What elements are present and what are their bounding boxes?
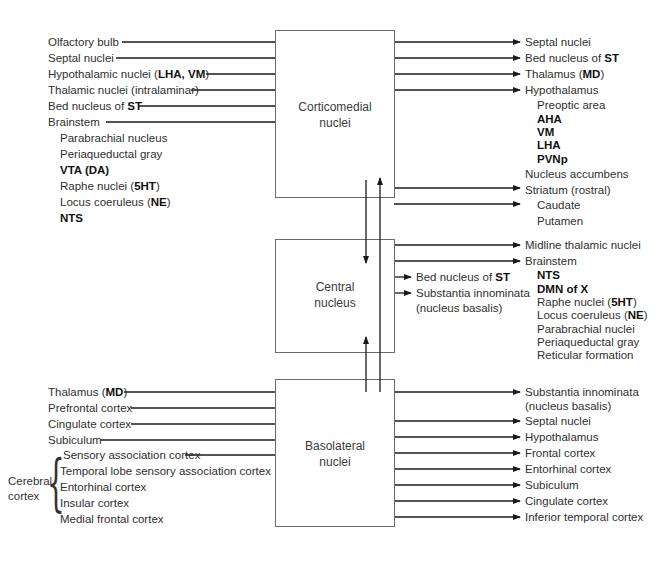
basolateral-nuclei-box: Basolateral nuclei [275, 379, 395, 527]
input-olfactory-bulb: Olfactory bulb [48, 35, 119, 49]
cerebral-cortex-label: Cerebral cortex [8, 474, 52, 504]
cortex-medial-frontal: Medial frontal cortex [60, 512, 164, 526]
output-hypothalamus: Hypothalamus [525, 83, 599, 97]
output-central-brainstem: Brainstem [525, 254, 577, 268]
bl-output-cingulate: Cingulate cortex [525, 494, 608, 508]
input-septal-nuclei: Septal nuclei [48, 51, 114, 65]
bl-input-subiculum: Subiculum [48, 433, 102, 447]
corticomedial-title-line1: Corticomedial [276, 100, 394, 115]
output-nucleus-accumbens: Nucleus accumbens [525, 167, 629, 181]
bl-input-thalamus: Thalamus (MD) [48, 385, 127, 399]
central-brainstem-locus: Locus coeruleus (NE) [537, 308, 648, 322]
corticomedial-title-line2: nuclei [276, 116, 394, 131]
central-brainstem-dmn: DMN of X [537, 282, 588, 296]
striatum-putamen: Putamen [537, 214, 583, 228]
input-brainstem: Brainstem [48, 115, 100, 129]
amygdala-connections-diagram: Corticomedial nuclei Central nucleus Bas… [0, 0, 668, 570]
brainstem-vta: VTA (DA) [60, 163, 109, 177]
bl-output-nucleus-basalis: (nucleus basalis) [525, 399, 611, 413]
hypothalamus-lha: LHA [537, 138, 561, 152]
central-output-bed-nucleus: Bed nucleus of ST [416, 270, 510, 284]
basolateral-title-line1: Basolateral [276, 439, 394, 454]
brainstem-locus-coeruleus: Locus coeruleus (NE) [60, 195, 171, 209]
central-output-nucleus-basalis: (nucleus basalis) [416, 301, 502, 315]
cortex-insular: Insular cortex [60, 496, 129, 510]
cortex-sensory-association: Sensory association cortex [63, 448, 200, 462]
input-hypothalamic-nuclei: Hypothalamic nuclei (LHA, VM) [48, 67, 209, 81]
cortex-entorhinal: Entorhinal cortex [60, 480, 146, 494]
hypothalamus-aha: AHA [537, 112, 562, 126]
input-bed-nucleus-st: Bed nucleus of ST [48, 99, 142, 113]
hypothalamus-pvnp: PVNp [537, 152, 568, 166]
central-output-substantia: Substantia innominata [416, 286, 530, 300]
output-midline-thalamic: Midline thalamic nuclei [525, 238, 641, 252]
bl-output-septal: Septal nuclei [525, 414, 591, 428]
corticomedial-nuclei-box: Corticomedial nuclei [275, 30, 395, 198]
output-bed-nucleus-st: Bed nucleus of ST [525, 51, 619, 65]
cortex-temporal-lobe: Temporal lobe sensory association cortex [60, 464, 271, 478]
bl-input-cingulate: Cingulate cortex [48, 417, 131, 431]
cerebral-label-line2: cortex [8, 489, 52, 504]
striatum-caudate: Caudate [537, 198, 580, 212]
cerebral-label-line1: Cerebral [8, 474, 52, 489]
bl-output-frontal: Frontal cortex [525, 446, 595, 460]
basolateral-title-line2: nuclei [276, 455, 394, 470]
bl-input-prefrontal: Prefrontal cortex [48, 401, 132, 415]
brainstem-periaqueductal: Periaqueductal gray [60, 147, 162, 161]
bl-output-substantia: Substantia innominata [525, 385, 639, 399]
central-title-line1: Central [276, 280, 394, 295]
output-striatum: Striatum (rostral) [525, 183, 611, 197]
hypothalamus-preoptic: Preoptic area [537, 98, 605, 112]
central-title-line2: nucleus [276, 296, 394, 311]
central-brainstem-periaqueductal: Periaqueductal gray [537, 335, 639, 349]
input-thalamic-nuclei: Thalamic nuclei (intralaminar) [48, 83, 199, 97]
bl-output-entorhinal: Entorhinal cortex [525, 462, 611, 476]
bl-output-inferior-temporal: Inferior temporal cortex [525, 510, 643, 524]
hypothalamus-vm: VM [537, 125, 554, 139]
central-brainstem-parabrachial: Parabrachial nuclei [537, 322, 635, 336]
central-nucleus-box: Central nucleus [275, 239, 395, 353]
central-brainstem-reticular: Reticular formation [537, 348, 634, 362]
brainstem-nts: NTS [60, 211, 83, 225]
brainstem-parabrachial: Parabrachial nucleus [60, 131, 167, 145]
bl-output-subiculum: Subiculum [525, 478, 579, 492]
bl-output-hypothalamus: Hypothalamus [525, 430, 599, 444]
brainstem-raphe: Raphe nuclei (5HT) [60, 179, 160, 193]
output-thalamus-md: Thalamus (MD) [525, 67, 604, 81]
central-brainstem-nts: NTS [537, 268, 560, 282]
output-septal-nuclei: Septal nuclei [525, 35, 591, 49]
central-brainstem-raphe: Raphe nuclei (5HT) [537, 295, 637, 309]
